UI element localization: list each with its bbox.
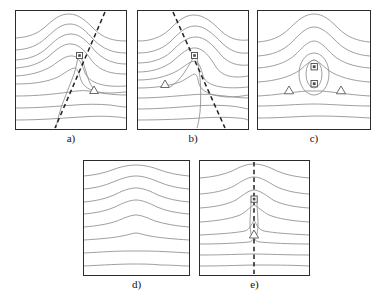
marker-square-lower [311,81,317,87]
marker-square-saddle [251,196,257,202]
panel-b-label: b) [137,132,249,144]
figure-caption [4,298,377,307]
marker-triangle-left [284,86,293,94]
dashed-reference-line [55,12,105,128]
panel-c [257,10,371,130]
panel-e-plot [199,160,310,276]
contour-lines [16,14,126,120]
panel-e-label: e) [199,278,310,290]
contour-lines [84,165,189,266]
dashed-reference-line [173,12,225,128]
marker-triangle-minimum [161,80,170,88]
panel-b-plot [137,10,249,130]
marker-square-upper [311,64,317,70]
panel-a-plot [15,10,127,130]
panel-a [15,10,127,130]
panel-a-label: a) [15,132,127,144]
marker-square-saddle [77,53,83,59]
marker-triangle-right [336,86,345,94]
contour-lines [138,15,248,120]
panel-c-label: c) [257,132,371,144]
marker-square-saddle [192,53,198,59]
closed-contour-outer [299,53,329,95]
panel-d-label: d) [83,278,190,290]
panel-b [137,10,249,130]
panel-d-plot [83,160,190,276]
panel-c-plot [257,10,371,130]
figure-container: a) [0,0,381,307]
panel-d [83,160,190,276]
panel-e [199,160,310,276]
